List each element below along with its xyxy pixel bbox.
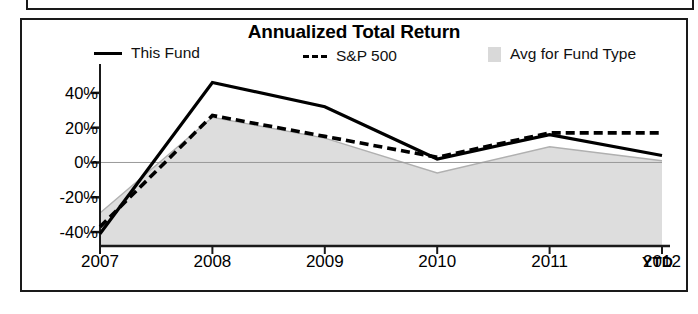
plot-area (22, 20, 686, 290)
x-axis-tick-label: 2009 (306, 252, 344, 272)
y-axis-tick-label: -20% (36, 188, 98, 207)
series-area-avg-for-fund-type (100, 117, 662, 246)
x-axis-tick-label: 2010 (418, 252, 456, 272)
x-axis-ytd-label: YTD (642, 253, 673, 271)
y-axis-tick-label: 40% (36, 83, 98, 102)
y-axis-tick-label: 20% (36, 118, 98, 137)
page-bottom-edge (0, 294, 698, 314)
x-axis-tick-label: 2007 (81, 252, 119, 272)
y-axis-tick-label: 0% (36, 153, 98, 172)
y-axis-tick-label: -40% (36, 223, 98, 242)
annualized-total-return-panel: Annualized Total Return This Fund S&P 50… (20, 18, 688, 292)
x-axis-tick-label: 2008 (193, 252, 231, 272)
y-axis-tick-labels: 40%20%0%-20%-40% (36, 20, 98, 290)
x-axis-tick-label: 2011 (531, 252, 568, 272)
clipped-panel-above (26, 0, 694, 10)
